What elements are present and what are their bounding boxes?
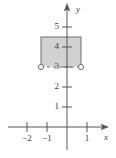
- coordinate-plane-figure: y x 5 4 3 2 1 −2 −1 1: [0, 0, 116, 158]
- y-tick-label-1: 1: [46, 102, 59, 111]
- y-axis-label: y: [76, 5, 80, 14]
- y-tick-label-3: 3: [46, 62, 59, 71]
- x-tick-label-minus1: −1: [37, 134, 57, 143]
- y-tick-label-5: 5: [46, 22, 59, 31]
- open-endpoint-left-icon: [38, 64, 43, 69]
- y-tick-label-4: 4: [46, 42, 59, 51]
- x-tick-label-minus2: −2: [17, 134, 37, 143]
- x-tick-label-1: 1: [81, 134, 93, 143]
- open-endpoint-right-icon: [78, 64, 83, 69]
- x-axis-label: x: [104, 133, 108, 142]
- y-tick-label-2: 2: [46, 82, 59, 91]
